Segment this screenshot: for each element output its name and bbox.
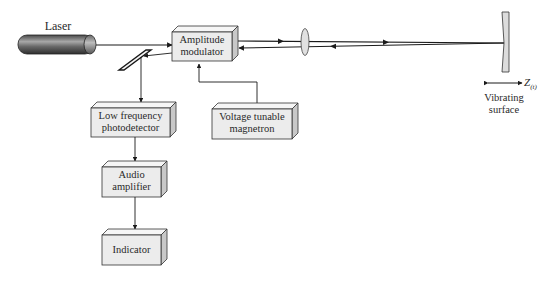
modulator-label-line2: modulator	[172, 46, 232, 58]
outgoing-beam-arrow-icon	[278, 39, 284, 45]
outgoing-beam-arrow-icon	[383, 40, 389, 46]
vibrating-surface-icon	[502, 12, 509, 72]
reflected-beam	[239, 43, 505, 48]
amplifier-label-line1: Audio	[102, 169, 161, 181]
magnetron-label-line2: magnetron	[212, 123, 292, 135]
photodetector-label-line2: photodetector	[91, 122, 170, 134]
magnetron-to-modulator-line	[199, 64, 257, 103]
surface-label-line2: surface	[474, 104, 534, 116]
beam-splitter-icon	[119, 50, 151, 70]
magnetron-label-line1: Voltage tunable	[212, 111, 292, 123]
laser-label: Laser	[38, 20, 78, 32]
displacement-subscript: (t)	[530, 83, 537, 91]
modulator-label-line1: Amplitude	[172, 34, 232, 46]
photodetector-label-line1: Low frequency	[91, 110, 170, 122]
reflected-beam-arrow-icon	[330, 44, 336, 49]
displacement-label: Z(t)	[524, 76, 544, 93]
return-beam-to-splitter	[144, 53, 172, 56]
amplifier-label-line2: amplifier	[102, 181, 161, 193]
surface-label-line1: Vibrating	[474, 92, 534, 104]
diagram-canvas	[0, 0, 558, 281]
laser-icon	[18, 35, 96, 54]
lens-icon	[301, 29, 309, 56]
indicator-label: Indicator	[102, 244, 161, 256]
